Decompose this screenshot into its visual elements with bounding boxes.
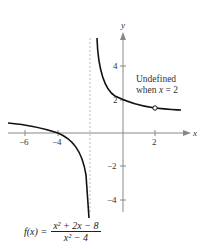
hole-marker <box>153 106 157 110</box>
formula-fraction: x² + 2x − 8 x² − 4 <box>51 220 100 243</box>
annotation-line2: when x = 2 <box>136 85 178 95</box>
y-tick-label: 4 <box>113 61 118 71</box>
y-axis-label: y <box>120 20 125 30</box>
x-axis-arrow-icon <box>183 130 191 136</box>
y-axis-arrow-icon <box>120 32 126 40</box>
x-tick-label: −6 <box>19 137 29 147</box>
formula-lhs: f(x) = <box>24 226 47 237</box>
formula-numerator: x² + 2x − 8 <box>51 220 100 232</box>
y-tick-label: −2 <box>107 161 117 171</box>
y-tick-label: −4 <box>107 195 117 205</box>
function-formula: f(x) = x² + 2x − 8 x² − 4 <box>24 220 101 243</box>
x-tick-label: 2 <box>152 137 157 147</box>
graph: y x −6 −4 2 4 2 −2 −4 Undefined when x =… <box>0 0 204 249</box>
annotation-line1: Undefined <box>136 74 176 84</box>
x-axis-label: x <box>192 128 197 138</box>
formula-denominator: x² − 4 <box>64 232 88 243</box>
x-tick-label: −4 <box>52 137 62 147</box>
